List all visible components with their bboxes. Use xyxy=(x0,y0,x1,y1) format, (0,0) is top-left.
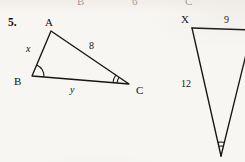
side-label-x: x xyxy=(26,44,30,54)
vertex-label-c: C xyxy=(136,85,143,96)
side-label-12: 12 xyxy=(181,79,191,89)
triangle-x-outline xyxy=(192,28,245,156)
vertex-label-b: B xyxy=(14,76,21,87)
vertex-label-x: X xyxy=(181,14,189,25)
worksheet-page: B 6 C 5. A B C x 8 y xyxy=(0,0,245,162)
side-label-8: 8 xyxy=(89,41,94,51)
vertex-label-a: A xyxy=(45,17,53,28)
geometry-figures xyxy=(0,0,245,162)
angle-arc-at-b xyxy=(37,65,44,77)
triangle-abc-outline xyxy=(32,31,129,84)
side-label-9: 9 xyxy=(224,15,229,25)
side-label-y: y xyxy=(70,85,74,95)
